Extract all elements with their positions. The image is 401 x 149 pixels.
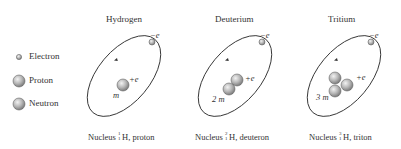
deuterium-title: Deuterium bbox=[215, 14, 254, 24]
caption-prefix: Nucleus bbox=[309, 132, 337, 142]
hydrogen-mass-label: m bbox=[113, 90, 119, 100]
tritium-electron-charge: −e bbox=[369, 30, 379, 40]
isotope-notation: 11 bbox=[118, 132, 122, 140]
hydrogen-caption: Nucleus 11H, proton bbox=[88, 132, 155, 142]
caption-prefix: Nucleus bbox=[88, 132, 116, 142]
caption-prefix: Nucleus bbox=[195, 132, 223, 142]
caption-suffix: , triton bbox=[349, 132, 372, 142]
deuterium-neutron-icon bbox=[223, 83, 235, 95]
legend-electron-label: Electron bbox=[29, 51, 60, 61]
caption-suffix: , proton bbox=[128, 132, 154, 142]
hydrogen-title: Hydrogen bbox=[106, 14, 142, 24]
atomic-number: 1 bbox=[118, 136, 121, 141]
deuterium-electron-charge: −e bbox=[260, 30, 270, 40]
legend-neutron-label: Neutron bbox=[29, 98, 59, 108]
tritium-proton-icon bbox=[341, 79, 353, 91]
hydrogen-nucleus-charge: +e bbox=[129, 74, 139, 84]
deuterium-mass-label: 2 m bbox=[212, 94, 225, 104]
legend-neutron-icon bbox=[13, 98, 25, 110]
legend-proton-icon bbox=[13, 75, 25, 87]
tritium-neutron-icon bbox=[329, 72, 341, 84]
tritium-caption: Nucleus 31H, triton bbox=[309, 132, 372, 142]
orbit-direction-arrow-icon bbox=[225, 58, 229, 61]
orbit-direction-arrow-icon bbox=[334, 58, 338, 61]
tritium-neutron-icon bbox=[329, 85, 341, 97]
hydrogen-electron-charge: −e bbox=[150, 30, 160, 40]
tritium-orbit bbox=[293, 23, 395, 130]
tritium-nucleus-charge: +e bbox=[356, 72, 366, 82]
tritium-mass-label: 3 m bbox=[316, 92, 329, 102]
legend-proton-label: Proton bbox=[29, 75, 53, 85]
orbit-direction-arrow-icon bbox=[114, 58, 118, 61]
caption-suffix: , deuteron bbox=[235, 132, 269, 142]
legend-electron-icon bbox=[16, 54, 21, 59]
isotope-notation: 21 bbox=[225, 132, 229, 140]
deuterium-caption: Nucleus 21H, deuteron bbox=[195, 132, 269, 142]
isotope-notation: 31 bbox=[339, 132, 343, 140]
deuterium-nucleus-charge: +e bbox=[245, 73, 255, 83]
atomic-number: 1 bbox=[225, 136, 228, 141]
atomic-number: 1 bbox=[339, 136, 342, 141]
tritium-title: Tritium bbox=[328, 14, 355, 24]
